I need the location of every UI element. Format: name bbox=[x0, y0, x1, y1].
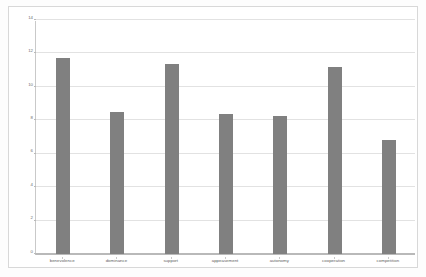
bar-slot bbox=[307, 21, 361, 254]
x-tick-label: benevolence bbox=[50, 259, 75, 263]
x-tick-label: cooperation bbox=[322, 259, 345, 263]
bar-slot bbox=[362, 21, 416, 254]
bar-slot bbox=[90, 21, 144, 254]
bar bbox=[165, 64, 179, 254]
x-axis: benevolencedominancesupportappeasementau… bbox=[35, 257, 415, 271]
x-tick-label: autonomy bbox=[270, 259, 289, 263]
bar-slot bbox=[36, 21, 90, 254]
gridline bbox=[36, 19, 415, 20]
bar bbox=[382, 140, 396, 254]
bar-slot bbox=[199, 21, 253, 254]
bar bbox=[273, 116, 287, 254]
bar bbox=[56, 58, 70, 254]
y-tick-label: 2 bbox=[31, 216, 33, 220]
chart-figure: 02468101214 benevolencedominancesupporta… bbox=[0, 0, 426, 277]
x-tick-label: competition bbox=[377, 259, 399, 263]
x-tick-label: dominance bbox=[106, 259, 127, 263]
bar-series bbox=[36, 21, 415, 254]
bar bbox=[219, 114, 233, 254]
bar bbox=[110, 112, 124, 254]
y-tick-label: 6 bbox=[31, 149, 33, 153]
plot-area: 02468101214 bbox=[35, 21, 415, 255]
y-tick-label: 0 bbox=[31, 250, 33, 254]
y-tick-label: 14 bbox=[28, 16, 33, 20]
bar bbox=[328, 67, 342, 254]
chart-frame: 02468101214 benevolencedominancesupporta… bbox=[8, 6, 418, 268]
bar-slot bbox=[145, 21, 199, 254]
y-tick-mark bbox=[34, 19, 36, 20]
bar-slot bbox=[253, 21, 307, 254]
x-tick-label: support bbox=[163, 259, 178, 263]
y-tick-label: 12 bbox=[28, 49, 33, 53]
y-tick-label: 4 bbox=[31, 183, 33, 187]
y-tick-label: 8 bbox=[31, 116, 33, 120]
x-tick-label: appeasement bbox=[212, 259, 239, 263]
y-tick-label: 10 bbox=[28, 82, 33, 86]
